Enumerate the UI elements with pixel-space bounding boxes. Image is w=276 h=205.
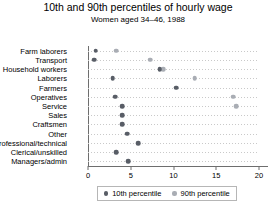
chart-row: Operatives [88, 92, 259, 101]
category-label: Operatives [31, 92, 67, 101]
category-label: Service [42, 101, 67, 110]
data-point-p10 [120, 104, 125, 109]
x-axis-line [88, 166, 268, 167]
row-gridline [88, 60, 259, 61]
chart-subtitle: Women aged 34–46, 1988 [0, 14, 276, 25]
data-point-p90 [234, 104, 239, 109]
chart-row: Service [88, 101, 259, 110]
chart-row: Clerical/unskilled [88, 148, 259, 157]
row-gridline [88, 143, 259, 144]
x-axis-tick-label: 0 [86, 171, 90, 180]
category-label: Clerical/unskilled [11, 148, 67, 157]
x-axis-tick-label: 15 [212, 171, 220, 180]
x-axis-tick [216, 166, 217, 170]
category-label: Craftsmen [32, 120, 67, 129]
chart-row: Farm laborers [88, 46, 259, 55]
chart-row: Laborers [88, 74, 259, 83]
row-gridline [88, 161, 259, 162]
row-gridline [88, 124, 259, 125]
data-point-p10 [120, 122, 125, 127]
category-label: Farmers [39, 83, 67, 92]
data-point-p10 [110, 76, 115, 81]
data-point-p10 [92, 58, 97, 63]
data-point-p90 [114, 48, 119, 53]
data-point-p90 [193, 76, 198, 81]
category-label: Managers/admin [11, 157, 67, 166]
data-point-p10 [93, 48, 98, 53]
data-point-p10 [120, 113, 125, 118]
plot-area: Farm laborersTransportHousehold workersL… [88, 46, 259, 166]
title-block: 10th and 90th percentiles of hourly wage… [0, 1, 276, 25]
x-axis-tick [173, 166, 174, 170]
percentile-dot-chart: 10th and 90th percentiles of hourly wage… [0, 0, 276, 205]
chart-row: Farmers [88, 83, 259, 92]
x-axis-tick-label: 10 [169, 171, 177, 180]
data-point-p10 [125, 131, 130, 136]
category-label: Laborers [37, 74, 67, 83]
category-label: Transport [35, 55, 67, 64]
legend-marker-icon [172, 191, 176, 195]
legend-marker-icon [104, 191, 108, 195]
data-point-p10 [113, 94, 118, 99]
chart-row: Managers/admin [88, 157, 259, 166]
category-label: Farm laborers [20, 46, 67, 55]
row-gridline [88, 69, 259, 70]
chart-row: Household workers [88, 64, 259, 73]
x-axis-tick [259, 166, 260, 170]
chart-legend: 10th percentile90th percentile [97, 186, 237, 201]
chart-title: 10th and 90th percentiles of hourly wage [0, 1, 276, 14]
x-axis-tick-label: 20 [255, 171, 263, 180]
row-gridline [88, 134, 259, 135]
legend-label: 10th percentile [112, 189, 161, 198]
data-point-p10 [136, 141, 141, 146]
legend-item: 10th percentile [104, 189, 161, 198]
chart-row: Other [88, 129, 259, 138]
x-axis-tick-label: 5 [129, 171, 133, 180]
data-point-p10 [158, 67, 163, 72]
x-axis-tick [88, 166, 89, 170]
chart-row: Professional/technical [88, 138, 259, 147]
data-point-p10 [174, 85, 179, 90]
plot-rows: Farm laborersTransportHousehold workersL… [88, 46, 259, 166]
row-gridline [88, 115, 259, 116]
legend-label: 90th percentile [181, 189, 230, 198]
data-point-p90 [148, 58, 153, 63]
data-point-p90 [231, 94, 236, 99]
data-point-p10 [114, 150, 119, 155]
category-label: Sales [48, 111, 67, 120]
chart-row: Transport [88, 55, 259, 64]
category-label: Professional/technical [0, 138, 67, 147]
category-label: Other [48, 129, 67, 138]
chart-row: Craftsmen [88, 120, 259, 129]
data-point-p10 [126, 159, 131, 164]
category-label: Household workers [3, 65, 67, 74]
chart-row: Sales [88, 111, 259, 120]
legend-item: 90th percentile [172, 189, 229, 198]
x-axis-tick [130, 166, 131, 170]
